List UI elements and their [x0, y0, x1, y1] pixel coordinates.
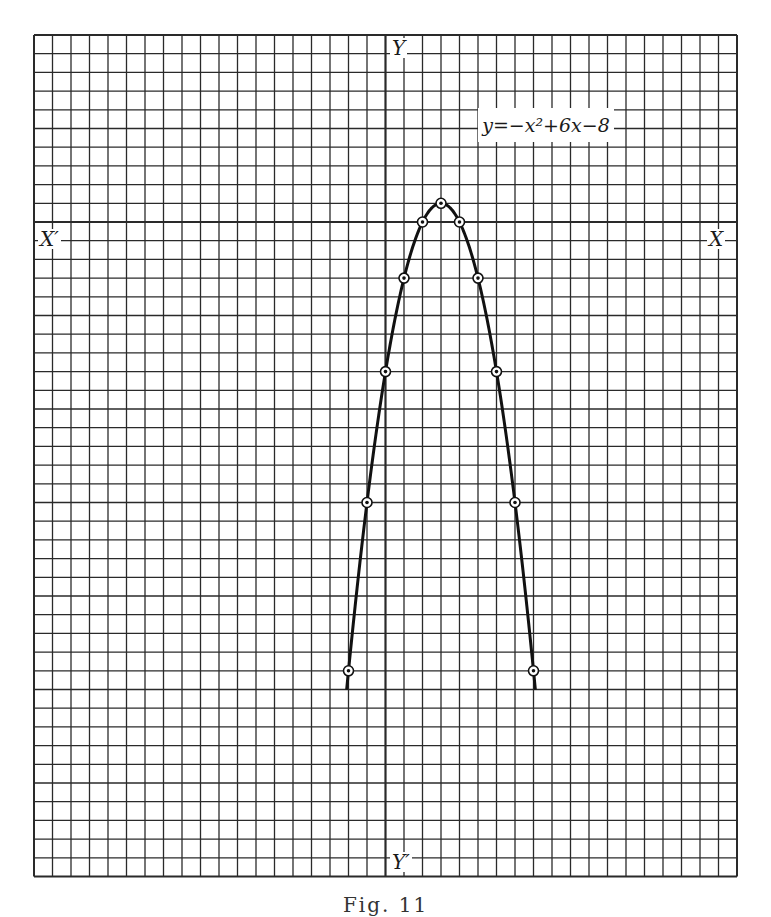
data-point-center [421, 220, 425, 224]
data-point-center [439, 202, 443, 206]
data-point-center [402, 276, 406, 280]
data-point-center [476, 276, 480, 280]
data-point-center [458, 220, 462, 224]
equation-label: y=−x²+6x−8 [478, 108, 614, 142]
data-point-center [495, 370, 499, 374]
data-point-center [513, 501, 517, 505]
x-axis-negative-label: X′ [38, 229, 61, 249]
data-point-center [347, 669, 351, 673]
equation-text: y=−x²+6x−8 [482, 114, 610, 136]
data-point-center [384, 370, 388, 374]
x-axis-label: X [707, 229, 725, 249]
y-axis-negative-label: Y′ [390, 852, 412, 872]
figure-caption: Fig. 11 [0, 893, 771, 917]
data-point-center [532, 669, 536, 673]
data-point-center [365, 501, 369, 505]
y-axis-label: Y [390, 38, 407, 58]
